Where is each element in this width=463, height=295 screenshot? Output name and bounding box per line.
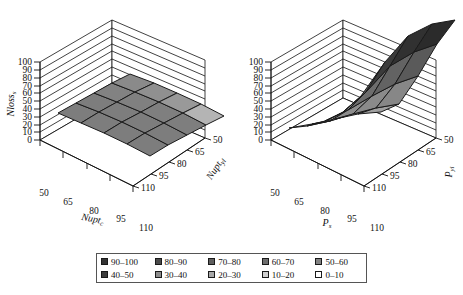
legend-swatch-icon xyxy=(262,258,269,265)
y-tick: 110 xyxy=(141,183,155,193)
legend-label: 90–100 xyxy=(111,257,138,267)
legend-label: 60–70 xyxy=(272,257,295,267)
legend-item: 50–60 xyxy=(315,257,362,267)
plot-right-canvas: 100 90 80 70 60 50 40 30 20 10 0 50 65 8 xyxy=(231,0,463,250)
legend-item: 0–10 xyxy=(315,270,362,280)
legend-swatch-icon xyxy=(262,271,269,278)
legend-row: 40–50 30–40 20–30 10–20 0–10 xyxy=(101,268,362,281)
y-tick: 50 xyxy=(213,135,223,145)
svg-text:Nuptc: Nuptc xyxy=(79,211,105,228)
legend-label: 40–50 xyxy=(111,270,134,280)
x-tick: 95 xyxy=(347,214,357,224)
z-axis-right-ticks: 100 90 80 70 60 50 40 30 20 10 0 xyxy=(249,57,264,145)
x-axis-right-title-sub: s xyxy=(329,222,332,230)
x-tick: 110 xyxy=(139,223,153,233)
y-axis-right-title-text: P xyxy=(443,171,454,178)
legend: 90–100 80–90 70–80 60–70 50–60 40–5 xyxy=(96,253,367,283)
x-tick: 110 xyxy=(370,223,384,233)
x-tick: 80 xyxy=(320,206,330,216)
x-tick: 50 xyxy=(39,188,49,198)
x-axis-left-title: Nuptc xyxy=(79,211,105,228)
legend-label: 80–90 xyxy=(165,257,188,267)
z-axis-left-ticks: 100 90 80 70 60 50 40 30 20 10 0 xyxy=(18,57,33,145)
legend-label: 20–30 xyxy=(218,270,241,280)
z-axis-right xyxy=(265,62,271,140)
legend-row: 90–100 80–90 70–80 60–70 50–60 xyxy=(101,255,362,268)
legend-swatch-icon xyxy=(101,258,108,265)
z-axis-left-title-text: Nloss xyxy=(5,94,16,117)
y-tick: 50 xyxy=(444,135,454,145)
legend-label: 50–60 xyxy=(325,257,348,267)
legend-item: 70–80 xyxy=(208,257,255,267)
legend-item: 90–100 xyxy=(101,257,148,267)
legend-swatch-icon xyxy=(155,258,162,265)
svg-text:Pyl: Pyl xyxy=(443,166,456,178)
surface-plot-left: 100 90 80 70 60 50 40 30 20 10 0 Nlosss xyxy=(0,0,232,250)
y-tick: 65 xyxy=(426,147,436,157)
x-tick: 65 xyxy=(63,197,73,207)
svg-text:Nuptyl: Nuptyl xyxy=(203,155,228,184)
legend-swatch-icon xyxy=(315,258,322,265)
y-tick: 80 xyxy=(408,159,418,169)
plot-left-canvas: 100 90 80 70 60 50 40 30 20 10 0 Nlosss xyxy=(0,0,232,250)
legend-label: 0–10 xyxy=(325,270,343,280)
legend-swatch-icon xyxy=(315,271,322,278)
z-axis-left xyxy=(34,62,40,140)
svg-text:Ps: Ps xyxy=(322,217,332,230)
x-axis-right-title: Ps xyxy=(322,217,332,230)
y-axis-left-title: Nuptyl xyxy=(203,155,228,184)
legend-item: 10–20 xyxy=(262,270,309,280)
x-tick: 95 xyxy=(116,214,126,224)
legend-label: 30–40 xyxy=(165,270,188,280)
y-axis-right-title: Pyl xyxy=(443,166,456,178)
y-axis-right-title-sub: yl xyxy=(448,166,456,172)
y-tick: 95 xyxy=(390,171,400,181)
z-axis-left-title-sub: s xyxy=(10,91,18,94)
legend-swatch-icon xyxy=(155,271,162,278)
legend-swatch-icon xyxy=(208,271,215,278)
legend-label: 70–80 xyxy=(218,257,241,267)
x-tick: 50 xyxy=(270,188,280,198)
z-axis-left-title: Nlosss xyxy=(5,91,18,117)
x-axis-left-title-sub: c xyxy=(99,220,104,229)
legend-item: 80–90 xyxy=(155,257,202,267)
z-tick: 0 xyxy=(258,135,263,145)
figure-container: 100 90 80 70 60 50 40 30 20 10 0 Nlosss xyxy=(0,0,463,295)
legend-item: 30–40 xyxy=(155,270,202,280)
y-tick: 80 xyxy=(177,159,187,169)
x-tick: 65 xyxy=(294,197,304,207)
legend-swatch-icon xyxy=(208,258,215,265)
x-axis-right-title-text: P xyxy=(322,217,329,228)
z-tick: 0 xyxy=(27,135,32,145)
legend-swatch-icon xyxy=(101,271,108,278)
y-tick: 95 xyxy=(159,171,169,181)
legend-item: 60–70 xyxy=(262,257,309,267)
y-tick: 110 xyxy=(372,183,386,193)
legend-item: 20–30 xyxy=(208,270,255,280)
x-axis-left-ticks: 50 65 80 95 110 xyxy=(39,188,153,233)
svg-text:Nlosss: Nlosss xyxy=(5,91,18,117)
y-tick: 65 xyxy=(195,147,205,157)
legend-label: 10–20 xyxy=(272,270,295,280)
surface-plot-right: 100 90 80 70 60 50 40 30 20 10 0 50 65 8 xyxy=(231,0,463,250)
legend-item: 40–50 xyxy=(101,270,148,280)
